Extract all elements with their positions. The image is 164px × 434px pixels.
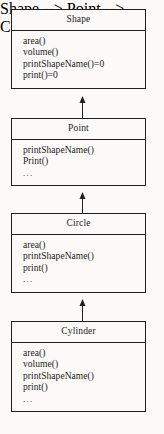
member-item: print() — [23, 382, 143, 394]
class-name-circle: Circle — [12, 214, 145, 235]
class-box-shape[interactable]: Shape area() volume() printShapeName()=0… — [11, 9, 146, 89]
class-name-point: Point — [12, 119, 145, 140]
connector-stem — [82, 198, 83, 213]
member-list-cylinder: area() volume() printShapeName() print()… — [12, 343, 145, 412]
member-item: area() — [23, 36, 143, 48]
member-item: printShapeName() — [23, 145, 143, 157]
member-list-point: printShapeName() Print() ... — [12, 140, 145, 186]
class-box-point[interactable]: Point printShapeName() Print() ... — [11, 118, 146, 186]
generalization-arrow-circle-to-point — [76, 192, 89, 213]
member-item: volume() — [23, 47, 143, 59]
member-item: area() — [23, 240, 143, 252]
member-item: Print() — [23, 156, 143, 168]
class-name-shape: Shape — [12, 10, 145, 31]
member-item: area() — [23, 348, 143, 360]
generalization-arrow-point-to-shape — [76, 96, 89, 118]
member-list-shape: area() volume() printShapeName()=0 print… — [12, 31, 145, 88]
member-item: print()=0 — [23, 70, 143, 82]
class-box-cylinder[interactable]: Cylinder area() volume() printShapeName(… — [11, 321, 146, 412]
class-box-circle[interactable]: Circle area() printShapeName() print() .… — [11, 213, 146, 293]
member-list-circle: area() printShapeName() print() ... — [12, 235, 145, 292]
uml-class-diagram: Shape area() volume() printShapeName()=0… — [0, 0, 164, 434]
member-item-ellipsis: ... — [23, 274, 143, 286]
member-item-ellipsis: ... — [23, 394, 143, 406]
connector-stem — [82, 305, 83, 321]
member-item: volume() — [23, 359, 143, 371]
generalization-arrow-cylinder-to-circle — [76, 299, 89, 321]
connector-stem — [82, 102, 83, 118]
member-item-ellipsis: ... — [23, 168, 143, 180]
member-item: printShapeName() — [23, 251, 143, 263]
class-name-cylinder: Cylinder — [12, 322, 145, 343]
member-item: printShapeName() — [23, 371, 143, 383]
member-item: printShapeName()=0 — [23, 59, 143, 71]
member-item: print() — [23, 263, 143, 275]
